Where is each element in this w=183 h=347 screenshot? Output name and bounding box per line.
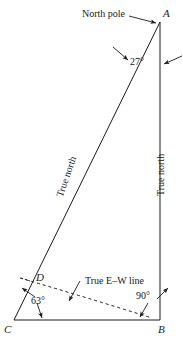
angle-label-b: 90°	[136, 291, 150, 301]
true-north-vertical-label: True north	[156, 154, 166, 196]
angle-b-arrow-up	[157, 288, 168, 299]
north-pole-label: North pole	[82, 9, 125, 19]
north-pole-leader-arrow	[129, 16, 156, 23]
vertex-label-d: D	[36, 272, 44, 283]
angle-b-arrow-down	[140, 303, 148, 317]
point-d-tick	[21, 278, 30, 281]
vertex-label-c: C	[4, 324, 11, 335]
geometry-figure: A B C D North pole True north True north…	[0, 0, 183, 347]
vertex-label-b: B	[158, 324, 165, 335]
angle-a-arrow-left	[113, 47, 128, 60]
angle-label-c: 63°	[31, 296, 45, 306]
true-ew-line-label: True E–W line	[85, 276, 144, 286]
true-ew-leader-arrow	[69, 281, 80, 301]
angle-a-arrow-right	[164, 56, 182, 64]
vertex-label-a: A	[163, 8, 170, 19]
angle-label-a: 27°	[130, 57, 144, 67]
